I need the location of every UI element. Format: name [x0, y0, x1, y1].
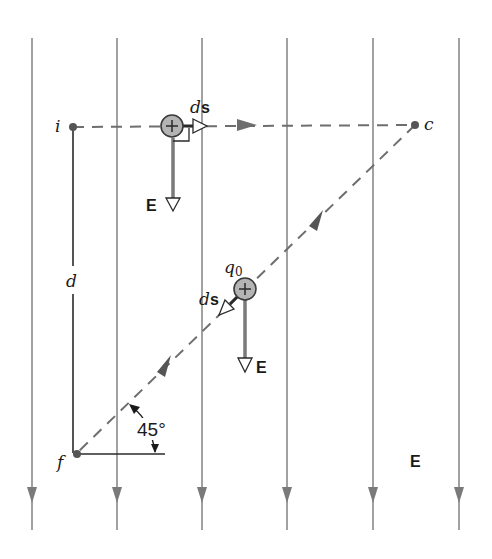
test-charge-2: E ds q0	[199, 257, 267, 376]
point-i-label: i	[55, 116, 60, 136]
test-charge-1: E ds	[146, 97, 210, 214]
point-f-label: f	[55, 452, 66, 472]
angle-marker: 45°	[129, 404, 176, 453]
ds-label: ds	[199, 289, 219, 309]
distance-line-d: d	[66, 127, 77, 453]
field-line	[27, 38, 37, 530]
electric-field-path-diagram: d 45° i c f E	[0, 0, 492, 559]
field-arrow-icon	[368, 487, 378, 503]
arc-arrow-icon	[151, 444, 159, 453]
direction-arrow-icon	[157, 355, 171, 377]
field-vector-label: E	[256, 359, 267, 376]
field-arrow-icon	[454, 487, 464, 503]
direction-arrow-icon	[237, 119, 257, 131]
field-line	[368, 38, 378, 530]
direction-arrow-icon	[309, 210, 323, 231]
point-c: c	[411, 114, 434, 134]
field-vector-arrow-icon	[166, 198, 180, 211]
angle-label: 45°	[137, 419, 166, 440]
field-arrow-icon	[112, 487, 122, 503]
ds-vector-arrow-icon	[193, 119, 207, 133]
point-c-label: c	[424, 114, 434, 134]
field-arrow-icon	[282, 487, 292, 503]
field-vector-label: E	[146, 197, 157, 214]
ds-label: ds	[190, 97, 210, 117]
field-arrow-icon	[197, 487, 207, 503]
field-vector-arrow-icon	[238, 358, 252, 372]
path-i-to-c	[73, 119, 415, 131]
field-line	[282, 38, 292, 530]
point-f: f	[55, 450, 81, 472]
field-arrow-icon	[27, 487, 37, 503]
charge-label: q0	[224, 257, 243, 279]
field-label: E	[410, 453, 421, 470]
field-line	[112, 38, 122, 530]
distance-label: d	[66, 271, 77, 291]
field-line	[454, 38, 464, 530]
